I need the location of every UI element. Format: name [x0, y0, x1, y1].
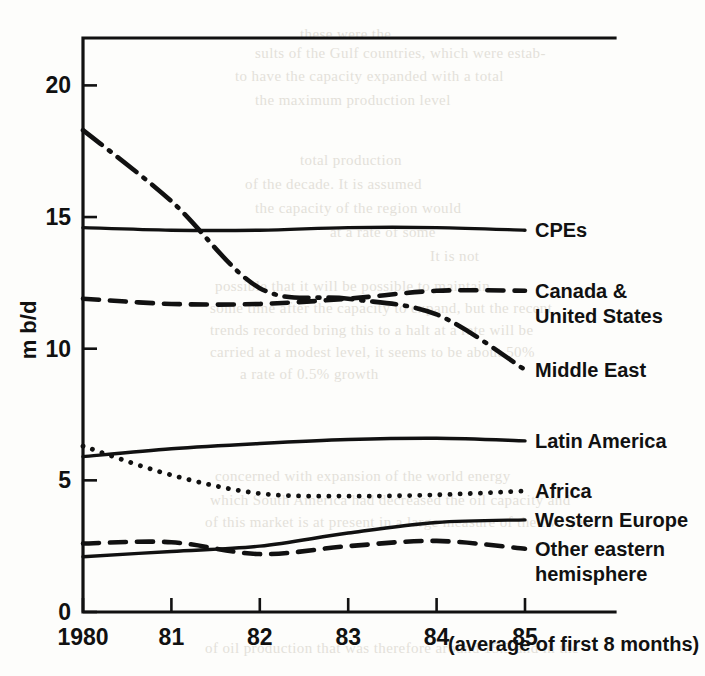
- series-label-line2: hemisphere: [535, 563, 647, 585]
- series-line-middle-east: [83, 130, 525, 370]
- series-label-line1: Other eastern: [535, 538, 665, 560]
- x-tick-label: 84: [424, 624, 450, 650]
- x-tick-label: 83: [335, 624, 361, 650]
- series-label: Middle East: [535, 359, 646, 381]
- y-tick-label: 20: [45, 72, 71, 98]
- x-tick-label: 1980: [57, 624, 108, 650]
- series-label: CPEs: [535, 219, 587, 241]
- y-tick-label: 15: [45, 204, 71, 230]
- series-label: Latin America: [535, 430, 667, 452]
- series-labels: Middle EastCPEsCanada &United StatesLati…: [535, 219, 688, 585]
- y-tick-label: 10: [45, 336, 71, 362]
- series-line-cpes: [83, 227, 525, 230]
- series-line-africa: [83, 446, 525, 496]
- series-label-line1: Canada &: [535, 280, 627, 302]
- series-label: Western Europe: [535, 509, 688, 531]
- x-tick-label: 82: [247, 624, 273, 650]
- series-lines: [83, 130, 525, 557]
- x-axis-note: (average of first 8 months): [448, 633, 699, 655]
- series-line-latin-america: [83, 438, 525, 456]
- series-label-line2: United States: [535, 305, 663, 327]
- y-tick-label: 0: [58, 599, 71, 625]
- y-tick-label: 5: [58, 467, 71, 493]
- line-chart-figure: 05101520 19808182838485 Middle EastCPEsC…: [0, 0, 705, 676]
- series-label: Africa: [535, 480, 593, 502]
- chart-canvas: 05101520 19808182838485 Middle EastCPEsC…: [0, 0, 705, 676]
- x-tick-label: 81: [159, 624, 185, 650]
- y-axis-title: m b/d: [16, 301, 41, 360]
